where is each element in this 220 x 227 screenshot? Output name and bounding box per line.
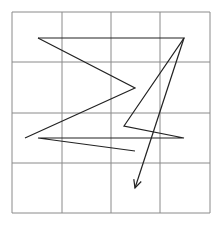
grid-diagram <box>0 0 220 227</box>
zigzag-path <box>25 38 135 138</box>
grid-lines <box>12 12 210 213</box>
